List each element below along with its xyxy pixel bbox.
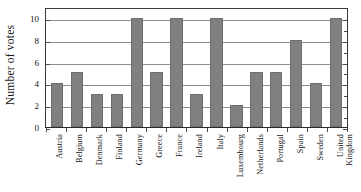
x-axis-tick-mark xyxy=(86,128,87,132)
bar-slot xyxy=(47,9,67,127)
x-axis-tick-label: Belgium xyxy=(76,134,85,163)
x-axis-tick-label: Luxembourg xyxy=(237,134,246,177)
bar xyxy=(230,105,242,127)
x-axis-tick-label: Denmark xyxy=(96,134,105,165)
x-axis-tick-mark xyxy=(146,128,147,132)
x-axis-tick-mark xyxy=(307,128,308,132)
bar-slot xyxy=(127,9,147,127)
bar-slot xyxy=(87,9,107,127)
bar xyxy=(190,94,202,127)
x-axis-tick-mark xyxy=(46,128,47,132)
bar xyxy=(150,72,162,127)
x-axis-tick-label: Netherlands xyxy=(257,134,266,175)
bar-chart-figure: Number of votes 0246810 AustriaBelgiumDe… xyxy=(0,0,361,192)
x-axis-tick-label: Sweden xyxy=(317,134,326,161)
bar-slot xyxy=(246,9,266,127)
x-axis-tick-label: Ireland xyxy=(196,134,205,158)
x-axis-tick-mark xyxy=(106,128,107,132)
y-axis-tick-label: 4 xyxy=(35,79,40,89)
x-axis-tick-label-line: Spain xyxy=(297,134,306,153)
bar xyxy=(170,18,182,127)
bar xyxy=(250,72,262,127)
x-axis-tick-label-line: France xyxy=(176,134,185,157)
x-label-slot: Sweden xyxy=(307,133,327,192)
x-label-slot: Denmark xyxy=(86,133,106,192)
x-axis-tick-mark xyxy=(126,128,127,132)
bar-slot xyxy=(147,9,167,127)
bar-slot xyxy=(207,9,227,127)
y-axis-tick-label: 10 xyxy=(30,14,39,24)
x-label-slot: Germany xyxy=(126,133,146,192)
x-label-slot: Spain xyxy=(287,133,307,192)
x-label-slot: Belgium xyxy=(66,133,86,192)
bar xyxy=(330,18,342,127)
x-axis-tick-label: Italy xyxy=(217,134,226,150)
bar-slot xyxy=(187,9,207,127)
x-axis-tick-label: Germany xyxy=(136,134,145,165)
bar-slot xyxy=(226,9,246,127)
bar xyxy=(51,83,63,127)
x-label-slot: Greece xyxy=(146,133,166,192)
bar xyxy=(111,94,123,127)
y-axis-tick-label: 6 xyxy=(35,58,40,68)
x-label-slot: Luxembourg xyxy=(227,133,247,192)
y-axis-tick-label: 0 xyxy=(35,123,40,133)
bar-slot xyxy=(167,9,187,127)
x-axis-tick-mark xyxy=(207,128,208,132)
bar-series xyxy=(46,9,347,127)
x-axis-tick-label: Spain xyxy=(297,134,306,153)
x-axis-tick-labels: AustriaBelgiumDenmarkFinlandGermanyGreec… xyxy=(45,133,348,192)
bar xyxy=(270,72,282,127)
bar xyxy=(210,18,222,127)
x-axis-tick-mark xyxy=(347,128,348,132)
x-axis-tick-label-line: Sweden xyxy=(317,134,326,161)
x-axis-tick-label-line: Germany xyxy=(136,134,145,165)
x-axis-tick-marks xyxy=(45,128,348,132)
bar-slot xyxy=(306,9,326,127)
x-axis-tick-label-line: Greece xyxy=(156,134,165,158)
y-axis-tick-label: 2 xyxy=(35,101,40,111)
x-axis-tick-label: Austria xyxy=(56,134,65,159)
bar-slot xyxy=(266,9,286,127)
x-axis-tick-label: UnitedKingdom xyxy=(337,134,354,166)
x-axis-tick-label-line: Italy xyxy=(217,134,226,150)
x-axis-tick-label-line: Ireland xyxy=(196,134,205,158)
plot-area xyxy=(45,8,348,128)
x-axis-tick-label-line: Netherlands xyxy=(257,134,266,175)
x-axis-tick-label: Greece xyxy=(156,134,165,158)
bar-slot xyxy=(326,9,346,127)
bar-slot xyxy=(286,9,306,127)
x-axis-tick-label-line: Kingdom xyxy=(346,134,355,166)
x-axis-tick-label-line: Finland xyxy=(116,134,125,160)
bar-slot xyxy=(107,9,127,127)
x-axis-tick-mark xyxy=(66,128,67,132)
bar xyxy=(310,83,322,127)
bar-slot xyxy=(67,9,87,127)
x-axis-tick-label-line: Belgium xyxy=(76,134,85,163)
bar xyxy=(131,18,143,127)
x-label-slot: France xyxy=(166,133,186,192)
y-axis-tick-labels: 0246810 xyxy=(20,8,42,128)
x-label-slot: Austria xyxy=(46,133,66,192)
bar xyxy=(290,40,302,127)
x-axis-tick-mark xyxy=(166,128,167,132)
x-axis-tick-mark xyxy=(267,128,268,132)
x-axis-tick-label-line: Austria xyxy=(56,134,65,159)
x-label-slot: Portugal xyxy=(267,133,287,192)
x-axis-tick-label-line: Denmark xyxy=(96,134,105,165)
x-axis-tick-label: Portugal xyxy=(277,134,286,163)
y-axis-tick-label: 8 xyxy=(35,36,40,46)
x-label-slot: Finland xyxy=(106,133,126,192)
y-axis-title: Number of votes xyxy=(4,25,16,105)
bar xyxy=(71,72,83,127)
x-axis-tick-mark xyxy=(327,128,328,132)
x-axis-tick-label: Finland xyxy=(116,134,125,160)
x-label-slot: Italy xyxy=(207,133,227,192)
x-label-slot: UnitedKingdom xyxy=(327,133,347,192)
x-axis-tick-label-line: Luxembourg xyxy=(237,134,246,177)
x-axis-tick-mark xyxy=(247,128,248,132)
x-label-slot: Netherlands xyxy=(247,133,267,192)
x-axis-tick-mark xyxy=(287,128,288,132)
x-axis-tick-label: France xyxy=(176,134,185,157)
x-axis-tick-mark xyxy=(186,128,187,132)
